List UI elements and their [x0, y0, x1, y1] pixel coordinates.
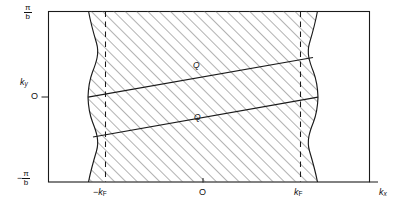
x-axis-label: kx — [379, 188, 387, 198]
x-axis-tick-label-pos-kf: kF — [294, 188, 302, 198]
y-axis-origin-label: O — [31, 92, 38, 101]
figure-container: π b ky O − π b −kF O kF kx Q Q — [0, 0, 406, 213]
y-axis-label: ky — [20, 78, 28, 88]
y-axis-tick-label-top: π b — [24, 4, 32, 21]
nesting-vector-lower-label: Q — [194, 112, 201, 122]
x-axis-tick-label-neg-kf: −kF — [93, 188, 107, 198]
nesting-vector-upper-label: Q — [193, 60, 200, 70]
x-axis-origin-label: O — [199, 188, 206, 197]
brillouin-zone-plot — [0, 0, 406, 213]
y-axis-tick-label-bottom: − π b — [17, 170, 30, 187]
